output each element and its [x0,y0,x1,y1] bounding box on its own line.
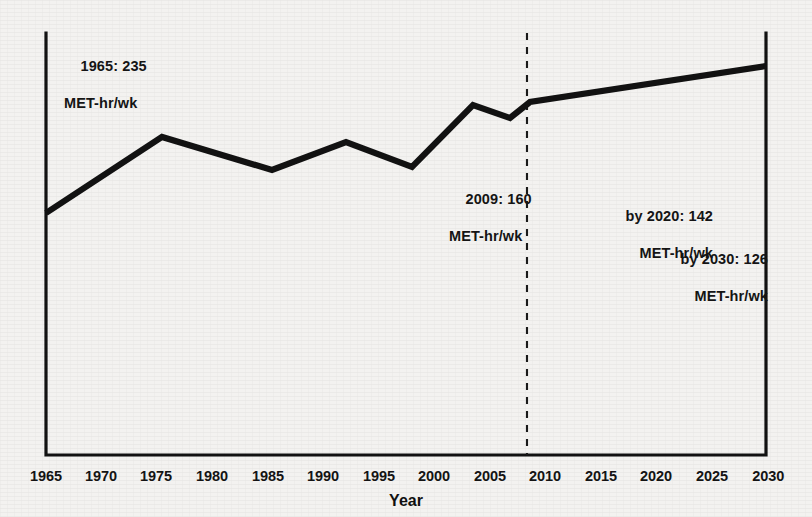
x-tick-label: 1995 [363,468,395,484]
x-tick-label: 1965 [30,468,62,484]
annotation-2020-line1: by 2020: 142 [626,208,713,224]
x-tick-label: 1970 [85,468,117,484]
x-tick-label: 2005 [474,468,506,484]
annotation-2030: by 2030: 126 MET-hr/wk [638,231,768,342]
x-tick-label: 2000 [418,468,450,484]
x-tick-label: 1990 [307,468,339,484]
x-tick-label: 1975 [140,468,172,484]
x-axis-title: Year [0,492,812,510]
x-tick-label: 2030 [752,468,784,484]
annotation-2030-line1: by 2030: 126 [681,251,768,267]
annotation-1965: 1965: 235 MET-hr/wk [64,38,147,149]
annotation-1965-line2: MET-hr/wk [64,94,147,113]
x-tick-label: 1985 [252,468,284,484]
annotation-1965-line1: 1965: 235 [81,58,147,74]
x-tick-label: 2025 [696,468,728,484]
x-tick-label: 2020 [640,468,672,484]
annotation-2009-line2: MET-hr/wk [449,227,532,246]
annotation-2030-line2: MET-hr/wk [638,287,768,306]
chart-figure: 1965: 235 MET-hr/wk 2009: 160 MET-hr/wk … [0,0,812,517]
annotation-2009: 2009: 160 MET-hr/wk [449,171,532,282]
x-tick-label: 2015 [585,468,617,484]
x-tick-label: 2010 [529,468,561,484]
x-tick-label: 1980 [196,468,228,484]
annotation-2009-line1: 2009: 160 [466,191,532,207]
